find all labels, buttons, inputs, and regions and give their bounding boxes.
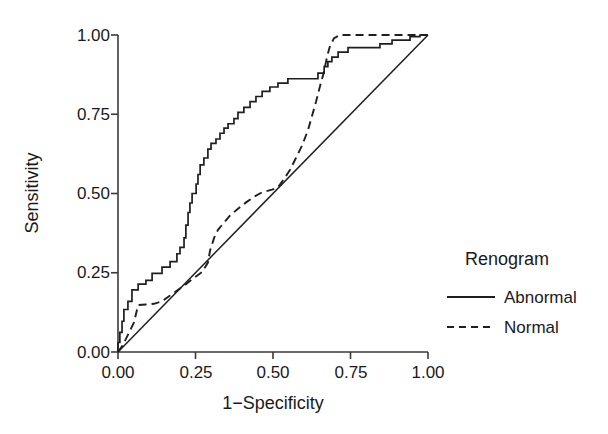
x-tick-label-0-50: 0.50 [256,363,289,382]
roc-chart-figure: 1.00 0.75 0.50 0.25 0.00 0.00 0.25 0.50 … [0,0,608,434]
y-tick-label-0-00: 0.00 [77,343,110,362]
legend-title: Renogram [465,249,549,269]
legend-label-abnormal: Abnormal [504,288,577,307]
x-tick-label-0-25: 0.25 [179,363,212,382]
x-tick-label-0-00: 0.00 [101,363,134,382]
y-tick-label-0-75: 0.75 [77,105,110,124]
y-axis-title: Sensitivity [22,152,42,233]
y-tick-label-0-25: 0.25 [77,263,110,282]
y-tick-label-0-50: 0.50 [77,184,110,203]
x-tick-label-0-75: 0.75 [334,363,367,382]
legend-label-normal: Normal [504,318,559,337]
y-tick-label-1-00: 1.00 [77,26,110,45]
x-axis-title: 1−Specificity [222,393,324,413]
figure-background [0,0,608,434]
roc-plot-svg: 1.00 0.75 0.50 0.25 0.00 0.00 0.25 0.50 … [0,0,608,434]
x-tick-label-1-00: 1.00 [411,363,444,382]
